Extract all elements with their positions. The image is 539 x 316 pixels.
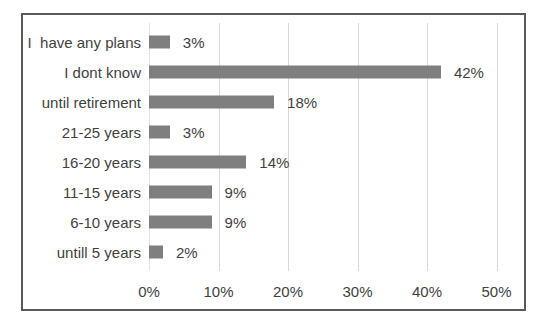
category-label: 16-20 years bbox=[23, 155, 149, 170]
bar-row: 6-10 years9% bbox=[23, 207, 524, 237]
bar-row: 21-25 years3% bbox=[23, 117, 524, 147]
value-label: 42% bbox=[454, 64, 484, 81]
bar bbox=[149, 186, 212, 199]
bar bbox=[149, 36, 170, 49]
x-axis-tick-label: 30% bbox=[342, 283, 372, 300]
bar-track: 14% bbox=[149, 147, 524, 177]
x-axis-tick-label: 10% bbox=[203, 283, 233, 300]
bar-rows: I have any plans3%I dont know42%until re… bbox=[23, 27, 524, 267]
value-label: 3% bbox=[183, 34, 205, 51]
bar-row: 16-20 years14% bbox=[23, 147, 524, 177]
value-label: 9% bbox=[225, 184, 247, 201]
bar-track: 9% bbox=[149, 177, 524, 207]
bar-row: 11-15 years9% bbox=[23, 177, 524, 207]
bar bbox=[149, 66, 441, 79]
category-label: 21-25 years bbox=[23, 125, 149, 140]
value-label: 3% bbox=[183, 124, 205, 141]
x-axis: 0%10%20%30%40%50% bbox=[23, 283, 524, 301]
category-label: I dont know bbox=[23, 65, 149, 80]
bar-track: 3% bbox=[149, 27, 524, 57]
bar bbox=[149, 126, 170, 139]
bar-track: 18% bbox=[149, 87, 524, 117]
bar-track: 2% bbox=[149, 237, 524, 267]
bar bbox=[149, 216, 212, 229]
bar-row: I dont know42% bbox=[23, 57, 524, 87]
bar-row: until retirement18% bbox=[23, 87, 524, 117]
category-label: 11-15 years bbox=[23, 185, 149, 200]
screenshot-canvas: I have any plans3%I dont know42%until re… bbox=[0, 0, 539, 316]
value-label: 14% bbox=[259, 154, 289, 171]
bar-chart-frame: I have any plans3%I dont know42%until re… bbox=[21, 13, 526, 311]
bar-row: I have any plans3% bbox=[23, 27, 524, 57]
bar bbox=[149, 96, 274, 109]
x-axis-tick-label: 0% bbox=[138, 283, 160, 300]
bar bbox=[149, 246, 163, 259]
category-label: 6-10 years bbox=[23, 215, 149, 230]
category-label: untill 5 years bbox=[23, 245, 149, 260]
x-axis-tick-label: 20% bbox=[273, 283, 303, 300]
value-label: 9% bbox=[225, 214, 247, 231]
value-label: 2% bbox=[176, 244, 198, 261]
bar-track: 3% bbox=[149, 117, 524, 147]
bar-track: 9% bbox=[149, 207, 524, 237]
x-axis-tick-label: 50% bbox=[481, 283, 511, 300]
bar-track: 42% bbox=[149, 57, 524, 87]
category-label: until retirement bbox=[23, 95, 149, 110]
value-label: 18% bbox=[287, 94, 317, 111]
category-label: I have any plans bbox=[23, 35, 149, 50]
x-axis-tick-label: 40% bbox=[412, 283, 442, 300]
bar bbox=[149, 156, 246, 169]
bar-row: untill 5 years2% bbox=[23, 237, 524, 267]
